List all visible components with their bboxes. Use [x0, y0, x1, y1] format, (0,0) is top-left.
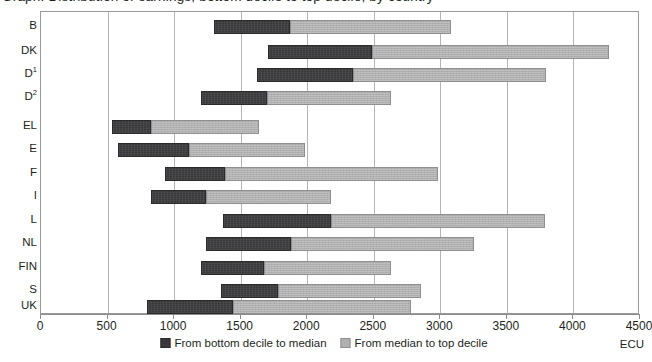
y-axis-label-b: B [1, 20, 37, 31]
x-axis-tick-label: 1500 [226, 320, 253, 333]
bar-segment-median-to-top [233, 300, 411, 314]
x-axis-tick-label: 1000 [160, 320, 187, 333]
bar-segment-bottom-to-median [268, 45, 372, 59]
bar-segment-median-to-top [225, 167, 438, 181]
bar-segment-bottom-to-median [112, 120, 152, 134]
legend-swatch-icon [341, 338, 351, 348]
y-axis-label-fin: FIN [1, 261, 37, 272]
bar-segment-median-to-top [291, 237, 473, 251]
bar-segment-bottom-to-median [214, 20, 290, 34]
legend-label: From bottom decile to median [174, 337, 326, 349]
bar-segment-bottom-to-median [223, 214, 331, 228]
bar-row [41, 214, 638, 228]
y-axis-label-f: F [1, 167, 37, 178]
legend-label: From median to top decile [355, 337, 488, 349]
bar-segment-median-to-top [353, 68, 546, 82]
y-axis-label-el: EL [1, 120, 37, 131]
x-axis-tick-label: 0 [37, 320, 44, 333]
bar-segment-bottom-to-median [221, 284, 278, 298]
y-axis-label-nl: NL [1, 237, 37, 248]
bar-segment-median-to-top [278, 284, 421, 298]
bar-row [41, 190, 638, 204]
legend-swatch-icon [160, 338, 170, 348]
bar-row [41, 284, 638, 298]
bar-segment-median-to-top [206, 190, 331, 204]
bar-segment-bottom-to-median [257, 68, 354, 82]
bar-segment-median-to-top [264, 261, 391, 275]
bar-segment-median-to-top [151, 120, 259, 134]
y-axis-label-l: L [1, 214, 37, 225]
y-axis-label-dk: DK [1, 45, 37, 56]
y-axis-label-s: S [1, 284, 37, 295]
y-axis-label-uk: UK [1, 300, 37, 311]
x-axis-tick-label: 500 [97, 320, 117, 333]
y-axis-category-labels: BDKD1D2ELEFILNLFINSUK [0, 11, 37, 314]
bar-row [41, 143, 638, 157]
bar-row [41, 20, 638, 34]
y-axis-label-d2: D2 [1, 91, 37, 102]
bar-row [41, 120, 638, 134]
bar-segment-bottom-to-median [147, 300, 232, 314]
bar-segment-median-to-top [372, 45, 609, 59]
plot-area [40, 11, 639, 314]
page-title: Graph: Distribution of earnings, bottom … [2, 0, 434, 4]
x-axis-tick-label: 4000 [559, 320, 586, 333]
bar-row [41, 68, 638, 82]
bar-segment-median-to-top [267, 91, 391, 105]
bar-segment-median-to-top [331, 214, 545, 228]
bar-segment-bottom-to-median [201, 261, 264, 275]
x-axis-tick-label: 4500 [626, 320, 652, 333]
unit-label: ECU [620, 338, 644, 350]
x-axis-tick-label: 3500 [493, 320, 520, 333]
bar-segment-bottom-to-median [201, 91, 268, 105]
bar-row [41, 91, 638, 105]
x-axis-tick-label: 2000 [293, 320, 320, 333]
x-axis-line [40, 314, 639, 315]
legend-items: From bottom decile to medianFrom median … [160, 337, 487, 349]
bar-segment-bottom-to-median [165, 167, 225, 181]
legend-item: From median to top decile [341, 337, 488, 349]
x-axis-tick-label: 2500 [359, 320, 386, 333]
y-axis-label-e: E [1, 143, 37, 154]
bar-segment-median-to-top [189, 143, 305, 157]
legend: From bottom decile to medianFrom median … [0, 337, 648, 353]
bar-segment-median-to-top [290, 20, 451, 34]
bar-row [41, 261, 638, 275]
bar-row [41, 45, 638, 59]
chart-title-cropped: Graph: Distribution of earnings, bottom … [0, 0, 648, 9]
bar-segment-bottom-to-median [151, 190, 206, 204]
bar-row [41, 237, 638, 251]
y-axis-label-i: I [1, 190, 37, 201]
bar-row [41, 167, 638, 181]
y-axis-label-d1: D1 [1, 68, 37, 79]
legend-item: From bottom decile to median [160, 337, 326, 349]
x-axis-tick-label: 3000 [426, 320, 453, 333]
bar-segment-bottom-to-median [206, 237, 291, 251]
bar-row [41, 300, 638, 314]
bar-segment-bottom-to-median [118, 143, 189, 157]
